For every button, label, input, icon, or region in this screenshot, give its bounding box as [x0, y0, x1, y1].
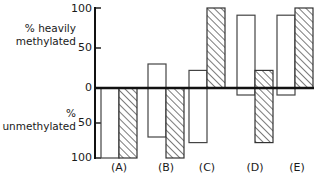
bar-open-e	[277, 15, 295, 95]
category-label-e: (E)	[289, 161, 305, 174]
bar-open-c	[189, 70, 207, 142]
bar-hatched-a	[119, 88, 137, 158]
bar-open-a	[101, 88, 119, 158]
category-label-b: (B)	[158, 161, 174, 174]
y-axis-title-top-line2: methylated	[16, 35, 76, 47]
bar-hatched-b	[166, 88, 184, 158]
category-label-c: (C)	[199, 161, 215, 174]
y-axis-title-bottom-line1: %	[66, 107, 76, 119]
y-axis-title-top-line1: % heavily	[25, 22, 76, 34]
y-axis-title-bottom-line2: unmethylated	[2, 120, 76, 132]
bar-hatched-e	[295, 8, 313, 88]
bar-open-b	[148, 64, 166, 137]
category-label-a: (A)	[111, 161, 127, 174]
tick-label-50-top: 50	[78, 41, 92, 54]
category-label-d: (D)	[246, 161, 263, 174]
tick-label-100-top: 100	[71, 2, 92, 15]
bar-hatched-d	[255, 70, 273, 142]
tick-label-100-bottom: 100	[71, 151, 92, 164]
tick-label-0: 0	[85, 81, 92, 94]
tick-label-50-bottom: 50	[78, 116, 92, 129]
bar-hatched-c	[207, 8, 225, 88]
bar-open-d	[237, 15, 255, 95]
chart-container: 100 50 0 50 100 % heavily methylated % u…	[0, 0, 314, 180]
methylation-bar-chart: 100 50 0 50 100 % heavily methylated % u…	[0, 0, 314, 180]
